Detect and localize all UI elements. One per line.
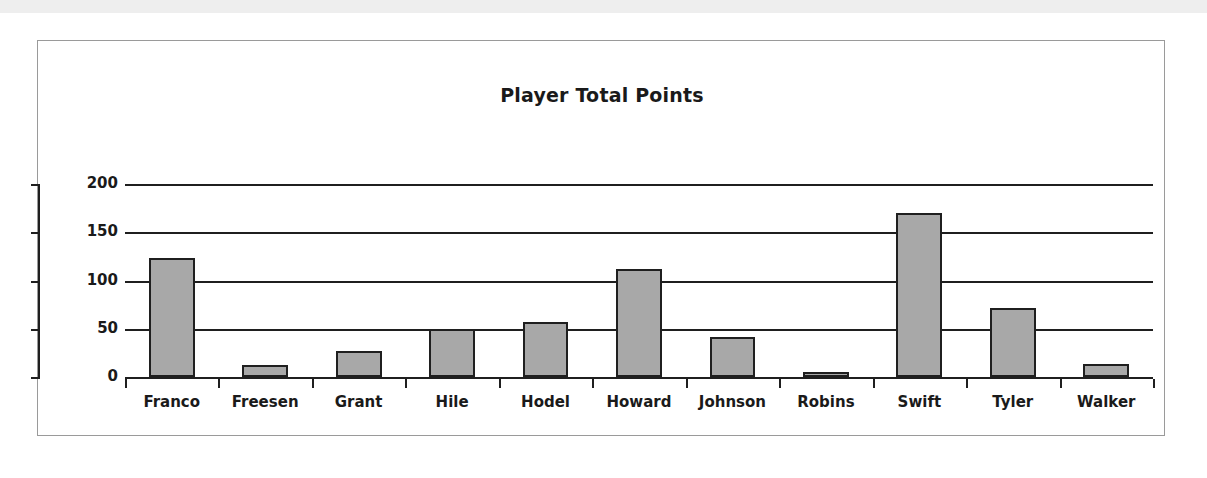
bar-slot — [873, 184, 966, 377]
bar-howard[interactable] — [616, 269, 662, 377]
y-axis-labels: 200150100500 — [70, 184, 118, 377]
x-axis-label-hile: Hile — [405, 393, 498, 411]
y-axis-tick-label: 200 — [87, 174, 118, 192]
x-axis-tick — [218, 379, 220, 388]
bar-johnson[interactable] — [710, 337, 756, 377]
y-axis-tick-label: 0 — [108, 367, 118, 385]
bar-slot — [1060, 184, 1153, 377]
top-banner-strip — [0, 0, 1207, 14]
x-axis-tick — [686, 379, 688, 388]
x-axis-tick — [125, 379, 127, 388]
bar-swift[interactable] — [896, 213, 942, 377]
bar-freesen[interactable] — [242, 365, 288, 377]
x-axis-label-swift: Swift — [873, 393, 966, 411]
bar-slot — [499, 184, 592, 377]
bar-franco[interactable] — [149, 258, 195, 377]
x-axis-tick — [1060, 379, 1062, 388]
bar-slot — [779, 184, 872, 377]
x-axis-label-grant: Grant — [312, 393, 405, 411]
bar-slot — [218, 184, 311, 377]
bar-walker[interactable] — [1083, 364, 1129, 377]
x-axis-tick — [312, 379, 314, 388]
bar-slot — [966, 184, 1059, 377]
bar-grant[interactable] — [336, 351, 382, 377]
x-axis-tick — [1153, 379, 1155, 388]
bar-slot — [592, 184, 685, 377]
x-axis-label-hodel: Hodel — [499, 393, 592, 411]
y-axis-tick-label: 50 — [97, 319, 118, 337]
bar-slot — [686, 184, 779, 377]
y-axis-tick — [31, 377, 40, 379]
x-axis-label-robins: Robins — [779, 393, 872, 411]
bar-hodel[interactable] — [523, 322, 569, 377]
x-axis-label-howard: Howard — [592, 393, 685, 411]
x-axis-tick — [873, 379, 875, 388]
page-surface: Player Total Points 200150100500 FrancoF… — [0, 13, 1207, 478]
y-axis-tick — [31, 281, 40, 283]
y-axis-tick-label: 100 — [87, 271, 118, 289]
chart-title: Player Total Points — [38, 84, 1166, 106]
bar-slot — [312, 184, 405, 377]
x-axis-label-walker: Walker — [1060, 393, 1153, 411]
bar-series — [125, 184, 1153, 377]
chart-frame: Player Total Points 200150100500 FrancoF… — [37, 40, 1165, 436]
y-axis-tick — [31, 329, 40, 331]
x-axis-tick — [405, 379, 407, 388]
bar-tyler[interactable] — [990, 308, 1036, 377]
y-axis-tick — [31, 184, 40, 186]
bar-slot — [405, 184, 498, 377]
bar-hile[interactable] — [429, 329, 475, 377]
y-axis-line — [38, 184, 40, 379]
y-axis-tick — [31, 232, 40, 234]
x-axis-label-franco: Franco — [125, 393, 218, 411]
x-axis-tick — [966, 379, 968, 388]
x-axis-label-freesen: Freesen — [218, 393, 311, 411]
x-axis-labels: FrancoFreesenGrantHileHodelHowardJohnson… — [125, 393, 1153, 411]
bar-slot — [125, 184, 218, 377]
x-axis-label-tyler: Tyler — [966, 393, 1059, 411]
x-axis-tick — [499, 379, 501, 388]
y-axis-tick-label: 150 — [87, 222, 118, 240]
x-axis-tick — [779, 379, 781, 388]
x-axis-label-johnson: Johnson — [686, 393, 779, 411]
x-axis-tick — [592, 379, 594, 388]
plot-area — [125, 184, 1153, 377]
x-axis-ticks — [125, 379, 1153, 388]
bar-robins[interactable] — [803, 372, 849, 377]
